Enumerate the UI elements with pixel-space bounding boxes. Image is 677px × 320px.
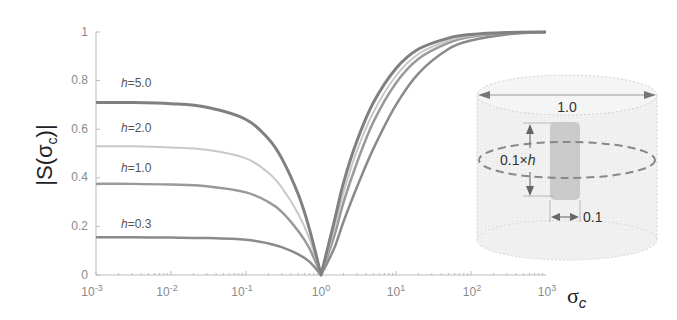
inner-rod <box>550 122 580 200</box>
x-tick-label: 10-3 <box>81 283 102 299</box>
x-tick-label: 10-2 <box>156 283 177 299</box>
x-tick-label: 101 <box>387 283 405 299</box>
x-tick-labels: 10-3 10-2 10-1 100 101 102 103 <box>81 283 556 299</box>
y-tick-label: 1 <box>81 25 88 39</box>
y-tick-label: 0 <box>81 268 88 282</box>
y-axis-label: |S(σc)| <box>32 124 60 185</box>
x-axis-label: σc <box>567 283 587 311</box>
chart-figure: 0 0.2 0.4 0.6 0.8 1 10-3 10-2 10-1 100 1… <box>0 0 677 320</box>
y-tick-label: 0.2 <box>71 219 88 233</box>
curve-labels: h=5.0 h=2.0 h=1.0 h=0.3 <box>121 76 152 231</box>
height-label: 0.1×h <box>500 152 536 168</box>
inset-cylinder: 1.0 0.1×h 0.1 <box>477 75 657 260</box>
curve-label-h1: h=1.0 <box>121 161 152 175</box>
curve-label-h2: h=2.0 <box>121 121 152 135</box>
y-tick-label: 0.4 <box>71 170 88 184</box>
y-tick-label: 0.6 <box>71 122 88 136</box>
curve-label-h5: h=5.0 <box>121 76 152 90</box>
x-tick-label: 100 <box>312 283 330 299</box>
x-tick-label: 10-1 <box>231 283 252 299</box>
curve-label-h03: h=0.3 <box>121 217 152 231</box>
y-tick-label: 0.8 <box>71 73 88 87</box>
y-tick-labels: 0 0.2 0.4 0.6 0.8 1 <box>71 25 88 282</box>
x-tick-label: 102 <box>463 283 481 299</box>
width-label: 0.1 <box>583 209 603 225</box>
diameter-label: 1.0 <box>557 99 577 115</box>
x-tick-label: 103 <box>538 283 556 299</box>
